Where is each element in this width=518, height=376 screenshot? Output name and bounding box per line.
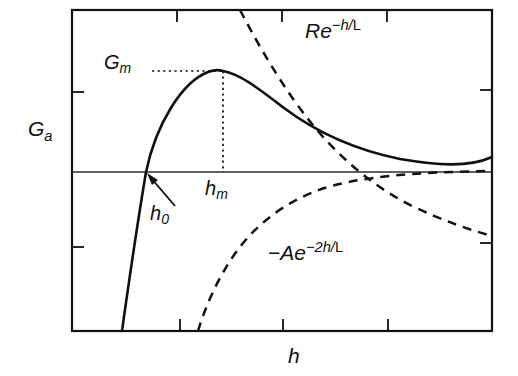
repulsive-term-sup-body: h/: [340, 17, 352, 33]
repulsive-term-base: Re: [305, 19, 332, 42]
attractive-term-sup-tail: L: [335, 239, 343, 255]
peak-position-base: h: [205, 177, 216, 199]
bottom-axis-ticks: [180, 319, 388, 331]
right-axis-ticks: [480, 90, 492, 243]
zero-crossing-label: h0: [150, 203, 169, 226]
plot-frame: [72, 10, 492, 331]
plot-canvas: [0, 0, 518, 376]
peak-position-label: hm: [205, 178, 228, 201]
curve-total-solid: [122, 70, 492, 331]
zero-crossing-subscript: 0: [161, 211, 169, 227]
x-axis-label: h: [288, 345, 300, 366]
left-axis-ticks: [72, 92, 84, 247]
repulsive-term-sup-tail: L: [353, 17, 361, 33]
zero-crossing-base: h: [150, 202, 161, 224]
repulsive-term-label: Re−h/L: [305, 18, 361, 41]
peak-value-label: Gm: [104, 52, 131, 75]
curve-repulsive-dashed: [240, 10, 492, 236]
attractive-term-label: −Ae−2h/L: [268, 240, 343, 263]
attractive-term-base: −Ae: [268, 241, 306, 264]
y-axis-label-subscript: a: [44, 128, 52, 144]
attractive-term-sup-sign: −: [306, 239, 315, 255]
y-axis-label-base: G: [28, 117, 44, 140]
attractive-term-sup-body: 2h/: [315, 239, 335, 255]
peak-value-base: G: [104, 51, 120, 73]
figure-container: Ga Gm hm h0 Re−h/L −Ae−2h/L h: [0, 0, 518, 376]
y-axis-label: Ga: [28, 118, 53, 143]
curve-attractive-dashed: [198, 171, 492, 331]
peak-position-subscript: m: [216, 186, 228, 202]
peak-value-subscript: m: [120, 60, 132, 76]
